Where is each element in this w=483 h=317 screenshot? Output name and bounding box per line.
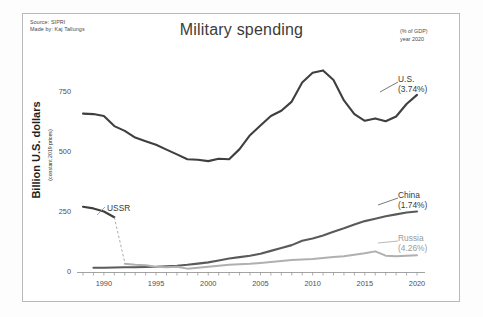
series-label-china-name: China bbox=[398, 190, 427, 200]
chart-figure: Source: SIPRI Made by: Kaj Tallungs Mili… bbox=[0, 0, 483, 317]
series-label-russia-pct: (4.26%) bbox=[398, 243, 427, 253]
series-lines bbox=[83, 70, 417, 268]
series-label-us-name: U.S. bbox=[398, 74, 427, 84]
leader-line-china bbox=[378, 198, 398, 205]
series-line-china bbox=[93, 212, 417, 268]
series-label-us: U.S. (3.74%) bbox=[398, 74, 427, 95]
leader-line-russia bbox=[378, 241, 398, 243]
leader-line-us bbox=[380, 82, 398, 92]
series-line-ussr-dashed bbox=[114, 217, 124, 262]
series-label-us-pct: (3.74%) bbox=[398, 84, 427, 94]
series-label-china: China (1.74%) bbox=[398, 190, 427, 211]
series-line-us bbox=[83, 70, 417, 161]
series-label-russia: Russia (4.26%) bbox=[398, 233, 427, 254]
axes bbox=[77, 273, 425, 276]
series-label-china-pct: (1.74%) bbox=[398, 200, 427, 210]
plot-area bbox=[0, 0, 483, 317]
leader-lines bbox=[97, 82, 398, 243]
series-label-russia-name: Russia bbox=[398, 233, 427, 243]
series-label-ussr: USSR bbox=[107, 203, 130, 213]
